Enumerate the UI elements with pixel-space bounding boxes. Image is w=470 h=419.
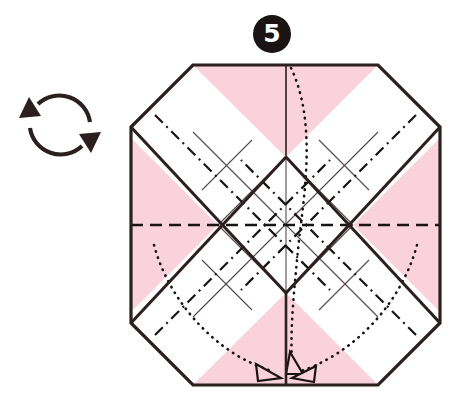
rotate-arrows-icon [14, 84, 106, 166]
rotate-arc-bottom [30, 128, 82, 155]
rotate-arrowhead-up [19, 97, 41, 118]
origami-figure [0, 0, 470, 419]
rotate-arrowhead-down [79, 132, 101, 153]
rotate-arc-top [38, 95, 90, 122]
diagram-canvas: 5 [0, 0, 470, 419]
